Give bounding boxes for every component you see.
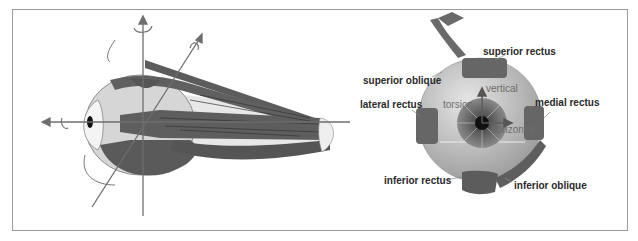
label-inferior-oblique: inferior oblique: [514, 180, 587, 191]
label-medial-rectus: medial rectus: [535, 97, 599, 108]
label-lateral-rectus: lateral rectus: [360, 99, 422, 110]
superior-rectus-muscle: [462, 58, 507, 78]
label-superior-oblique: superior oblique: [363, 75, 441, 86]
axis-label-horizontal: horizontal: [491, 124, 534, 135]
right-eye-front-view: [412, 12, 550, 194]
lateral-rectus-muscle: [416, 108, 438, 144]
left-eye-side-view: [42, 16, 350, 216]
label-inferior-rectus: inferior rectus: [384, 175, 451, 186]
label-superior-rectus: superior rectus: [483, 46, 556, 57]
axis-label-torsion: torsion: [443, 99, 473, 110]
arrow-up-icon: [139, 16, 147, 24]
arrow-left-icon: [42, 118, 50, 126]
axis-label-vertical: vertical: [486, 83, 518, 94]
eye-illustration: [0, 0, 638, 241]
inferior-rectus-muscle: [462, 171, 498, 194]
